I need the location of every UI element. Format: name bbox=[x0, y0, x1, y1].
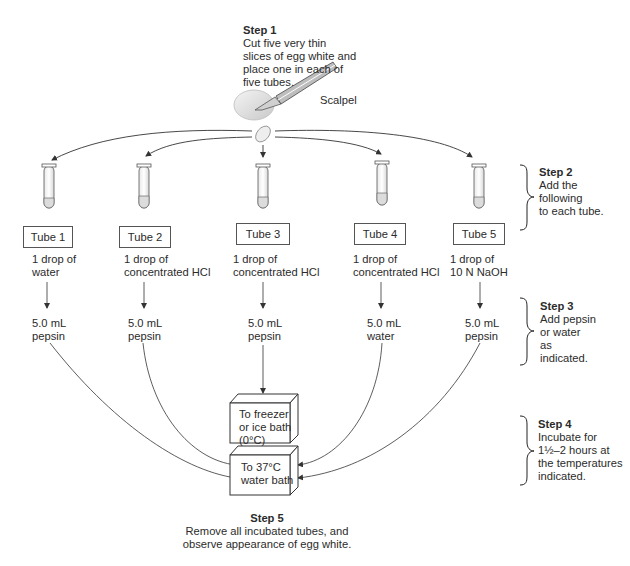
freezer-line: or ice bath bbox=[239, 421, 291, 434]
test-tube-icon-5 bbox=[472, 164, 486, 208]
test-tube-icon-3 bbox=[256, 164, 270, 208]
reagent-line: 5.0 mL bbox=[128, 317, 162, 330]
step4-line: indicated. bbox=[538, 470, 623, 483]
step1-line: slices of egg white and bbox=[243, 50, 356, 63]
step5-title: Step 5 bbox=[175, 512, 359, 525]
reagent-line: pepsin bbox=[248, 330, 282, 343]
addition-line: concentrated HCl bbox=[233, 266, 319, 279]
tube-3-addition: 1 drop of concentrated HCl bbox=[233, 253, 319, 279]
freezer-label: To freezer or ice bath (0°C) bbox=[239, 408, 291, 447]
step3-line: indicated. bbox=[540, 352, 596, 365]
step3-title: Step 3 bbox=[540, 300, 596, 313]
step3-text: Step 3 Add pepsin or water as indicated. bbox=[540, 300, 596, 365]
scalpel-label: Scalpel bbox=[320, 94, 357, 107]
tube-4-addition: 1 drop of concentrated HCl bbox=[353, 253, 439, 279]
reagent-line: 5.0 mL bbox=[367, 317, 401, 330]
water-bath-label: To 37°C water bath bbox=[241, 461, 293, 487]
tube-5-label: Tube 5 bbox=[453, 223, 505, 245]
step2-title: Step 2 bbox=[539, 166, 604, 179]
step2-line: following bbox=[539, 192, 604, 205]
step4-line: the temperatures bbox=[538, 457, 623, 470]
tube-1-addition: 1 drop of water bbox=[32, 253, 76, 279]
step4-line: 1½–2 hours at bbox=[538, 444, 623, 457]
step5-line: Remove all incubated tubes, and bbox=[175, 525, 359, 538]
step1-text: Step 1 Cut five very thin slices of egg … bbox=[243, 24, 356, 89]
step5-line: observe appearance of egg white. bbox=[175, 538, 359, 551]
step3-line: Add pepsin bbox=[540, 313, 596, 326]
tube-3-reagent: 5.0 mL pepsin bbox=[248, 317, 282, 343]
tube-2-label: Tube 2 bbox=[119, 226, 171, 248]
step2-line: Add the bbox=[539, 179, 604, 192]
step1-line: Cut five very thin bbox=[243, 37, 356, 50]
tube-3-label: Tube 3 bbox=[236, 223, 290, 245]
step4-text: Step 4 Incubate for 1½–2 hours at the te… bbox=[538, 418, 623, 483]
addition-line: 1 drop of bbox=[233, 253, 319, 266]
step4-title: Step 4 bbox=[538, 418, 623, 431]
addition-line: water bbox=[32, 266, 76, 279]
tube-2-reagent: 5.0 mL pepsin bbox=[128, 317, 162, 343]
step3-line: as bbox=[540, 339, 596, 352]
egg-slice-icon bbox=[253, 123, 274, 145]
addition-line: concentrated HCl bbox=[124, 266, 210, 279]
reagent-line: 5.0 mL bbox=[248, 317, 282, 330]
tube-5-reagent: 5.0 mL pepsin bbox=[465, 317, 499, 343]
reagent-line: 5.0 mL bbox=[32, 317, 66, 330]
step2-line: to each tube. bbox=[539, 205, 604, 218]
reagent-line: 5.0 mL bbox=[465, 317, 499, 330]
step1-line: five tubes. bbox=[243, 76, 356, 89]
addition-line: 1 drop of bbox=[32, 253, 76, 266]
step1-line: place one in each of bbox=[243, 63, 356, 76]
reagent-line: pepsin bbox=[465, 330, 499, 343]
step2-text: Step 2 Add the following to each tube. bbox=[539, 166, 604, 218]
freezer-line: To freezer bbox=[239, 408, 291, 421]
freezer-line: (0°C) bbox=[239, 434, 291, 447]
curly-brace-icon bbox=[520, 165, 534, 485]
step3-line: or water bbox=[540, 326, 596, 339]
addition-line: concentrated HCl bbox=[353, 266, 439, 279]
tube-4-label: Tube 4 bbox=[354, 223, 406, 245]
step1-title: Step 1 bbox=[243, 24, 356, 37]
reagent-line: pepsin bbox=[32, 330, 66, 343]
tube-1-reagent: 5.0 mL pepsin bbox=[32, 317, 66, 343]
addition-line: 1 drop of bbox=[450, 253, 508, 266]
tube-4-reagent: 5.0 mL water bbox=[367, 317, 401, 343]
addition-line: 1 drop of bbox=[353, 253, 439, 266]
tube-2-addition: 1 drop of concentrated HCl bbox=[124, 253, 210, 279]
reagent-line: water bbox=[367, 330, 401, 343]
reagent-line: pepsin bbox=[128, 330, 162, 343]
addition-line: 10 N NaOH bbox=[450, 266, 508, 279]
tube-5-addition: 1 drop of 10 N NaOH bbox=[450, 253, 508, 279]
test-tube-icon-1 bbox=[42, 164, 56, 208]
test-tube-icon-2 bbox=[137, 164, 151, 208]
addition-line: 1 drop of bbox=[124, 253, 210, 266]
tube-1-label: Tube 1 bbox=[23, 226, 73, 248]
step5-text: Step 5 Remove all incubated tubes, and o… bbox=[175, 512, 359, 551]
water-bath-line: To 37°C bbox=[241, 461, 293, 474]
step4-line: Incubate for bbox=[538, 431, 623, 444]
water-bath-line: water bath bbox=[241, 474, 293, 487]
test-tube-icon-4 bbox=[375, 161, 389, 205]
